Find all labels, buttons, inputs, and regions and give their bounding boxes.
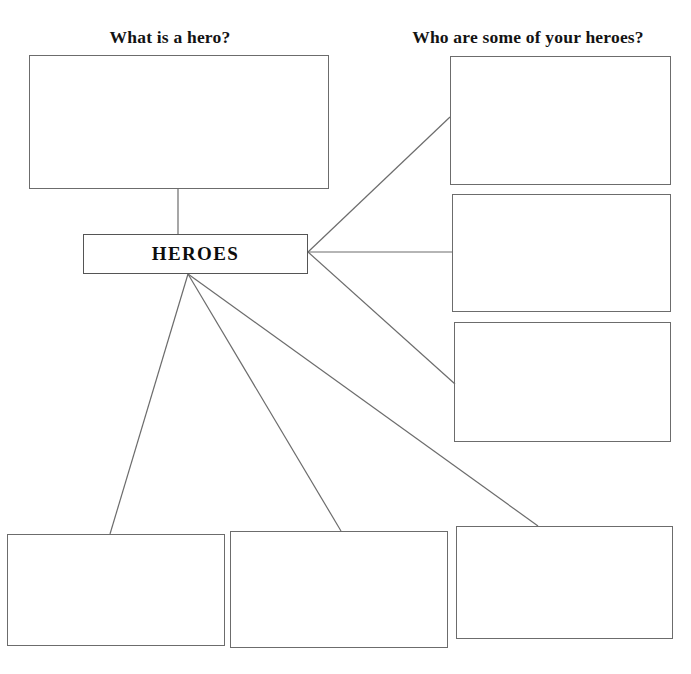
heading-who-are-your-heroes: Who are some of your heroes? xyxy=(395,27,661,48)
hero-box-2[interactable] xyxy=(452,194,671,312)
trait-box-3[interactable] xyxy=(456,526,673,639)
center-to-trait-1 xyxy=(110,274,188,534)
trait-box-2[interactable] xyxy=(230,531,448,648)
worksheet-canvas: What is a hero? Who are some of your her… xyxy=(0,0,691,674)
heading-what-is-a-hero: What is a hero? xyxy=(85,27,255,48)
hero-box-1[interactable] xyxy=(450,56,671,185)
center-node-heroes: HEROES xyxy=(83,234,308,274)
center-node-label: HEROES xyxy=(152,243,240,265)
center-to-hero-1 xyxy=(308,117,450,252)
trait-box-1[interactable] xyxy=(7,534,225,646)
center-to-trait-2 xyxy=(188,274,341,531)
definition-box[interactable] xyxy=(29,55,329,189)
hero-box-3[interactable] xyxy=(454,322,671,442)
center-to-hero-3 xyxy=(308,252,455,384)
